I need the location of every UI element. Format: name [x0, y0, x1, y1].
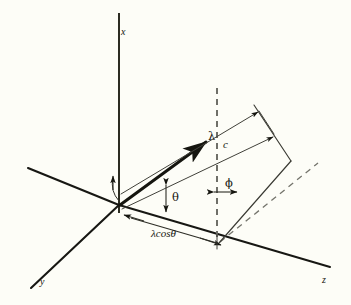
y-axis-upper	[28, 168, 119, 205]
figure-canvas	[0, 0, 351, 305]
lambda-vector-arrow	[120, 142, 206, 205]
x-axis-label: x	[121, 27, 125, 37]
projection-arrow-right	[200, 238, 221, 245]
wavefront-line-lower	[219, 161, 291, 243]
projection-arrow-left	[124, 215, 144, 221]
vector-geometry-figure: x y z λ c θ ϕ λcosθ	[0, 0, 351, 305]
band-upper-edge	[121, 112, 258, 194]
lambda-vector-label: λ	[208, 131, 215, 143]
y-axis-label: y	[40, 277, 44, 287]
y-axis-lower	[31, 205, 119, 288]
phi-angle-label: ϕ	[225, 178, 233, 190]
wavefront-line-upper	[254, 105, 291, 161]
theta-angle-label: θ	[172, 192, 179, 204]
c-width-connector	[259, 111, 274, 134]
projection-length-label: λcosθ	[151, 228, 176, 239]
z-axis-label: z	[322, 275, 326, 285]
c-segment-label: c	[223, 139, 228, 150]
diagonal-dashed-line	[220, 163, 318, 242]
